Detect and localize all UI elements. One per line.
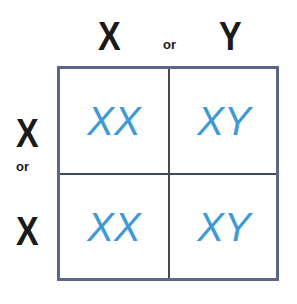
top-or-label: or (163, 38, 176, 51)
cell-bottom-right: XY (170, 175, 278, 279)
cell-bottom-left: XX (60, 175, 168, 279)
cell-top-left: XX (60, 69, 168, 173)
side-or-label: or (16, 160, 29, 173)
side-allele-x-bottom: X (16, 211, 39, 251)
punnett-grid: XX XY XX XY (57, 66, 279, 281)
side-allele-x-top: X (16, 113, 39, 153)
top-allele-y: Y (219, 16, 242, 56)
top-allele-x: X (98, 16, 121, 56)
cell-top-right: XY (170, 69, 278, 173)
